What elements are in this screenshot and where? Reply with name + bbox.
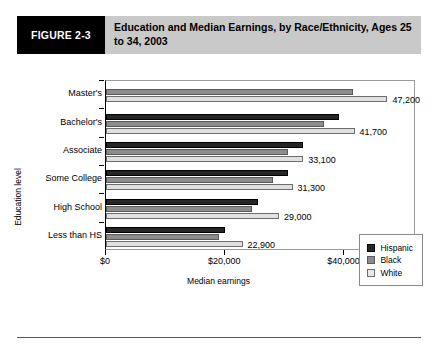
x-tick-label: $40,000 [327,256,360,266]
legend-label: Black [380,255,401,265]
bar-black [106,149,288,155]
bar-white [106,184,293,190]
bar-white [106,96,387,102]
bar-value-label: 33,100 [308,155,336,165]
bar-black [106,121,324,127]
y-tick-label: High School [53,202,102,212]
figure-number-badge: FIGURE 2-3 [17,16,105,54]
bar-value-label: 22,900 [248,240,276,250]
bar-hispanic [106,114,339,120]
figure-page: FIGURE 2-3 Education and Median Earnings… [0,0,437,353]
bars-container: 47,20041,70033,10031,30029,00022,900 [106,81,414,249]
bar-black [106,89,353,95]
bar-black [106,234,219,240]
legend-item: Black [367,255,413,265]
legend-swatch-hispanic [367,244,375,252]
plot-area: 47,20041,70033,10031,30029,00022,900 [105,80,415,250]
legend-item: White [367,268,413,278]
x-tick-label: $0 [100,256,110,266]
y-tick-label: Master's [68,88,102,98]
chart-legend: HispanicBlackWhite [359,234,423,286]
y-axis-tick-labels: Master'sBachelor'sAssociateSome CollegeH… [10,80,102,250]
bar-black [106,206,252,212]
figure-title: Education and Median Earnings, by Race/E… [114,21,412,49]
bar-white [106,128,355,134]
bar-hispanic [106,199,258,205]
bar-black [106,177,273,183]
legend-label: White [380,268,402,278]
bar-hispanic [106,227,225,233]
bar-value-label: 47,200 [392,95,420,105]
footer-divider [17,337,421,338]
bar-white [106,213,279,219]
y-tick-label: Some College [45,173,102,183]
figure-title-bar: Education and Median Earnings, by Race/E… [105,16,421,54]
bar-hispanic [106,170,288,176]
bar-chart: Education level Master'sBachelor'sAssoci… [0,60,437,300]
legend-item: Hispanic [367,243,413,253]
figure-header: FIGURE 2-3 Education and Median Earnings… [17,16,421,54]
bar-value-label: 31,300 [298,183,326,193]
y-tick-label: Bachelor's [60,117,102,127]
legend-swatch-black [367,256,375,264]
bar-value-label: 41,700 [360,127,388,137]
legend-swatch-white [367,269,375,277]
y-tick-label: Less than HS [48,230,102,240]
x-tick-label: $20,000 [208,256,241,266]
legend-label: Hispanic [380,243,413,253]
bar-white [106,241,243,247]
bar-value-label: 29,000 [284,212,312,222]
bar-hispanic [106,142,303,148]
y-tick-label: Associate [63,145,102,155]
bar-white [106,156,303,162]
